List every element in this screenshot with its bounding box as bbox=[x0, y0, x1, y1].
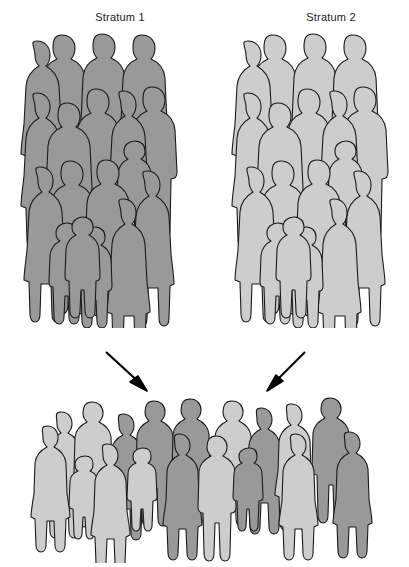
stratum-1-label: Stratum 1 bbox=[60, 11, 180, 23]
stratum-2-label: Stratum 2 bbox=[271, 11, 391, 23]
arrow-from-stratum-2 bbox=[267, 352, 305, 391]
arrows-layer bbox=[0, 330, 409, 400]
crowd-stratum-1 bbox=[14, 28, 179, 328]
crowd-combined-sample bbox=[30, 393, 380, 563]
stratified-sampling-diagram: Stratum 1 Stratum 2 bbox=[0, 0, 409, 567]
arrow-from-stratum-1 bbox=[106, 352, 147, 391]
crowd-stratum-2 bbox=[225, 28, 390, 328]
